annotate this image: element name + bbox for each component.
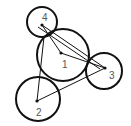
circle-graph-diagram: 1234 xyxy=(0,0,131,126)
center-point-4 xyxy=(40,23,43,26)
center-point-2 xyxy=(35,99,38,102)
labels: 1234 xyxy=(36,12,115,118)
circles xyxy=(16,7,122,121)
node-label-4: 4 xyxy=(42,12,48,23)
node-label-1: 1 xyxy=(62,59,68,70)
node-label-3: 3 xyxy=(109,70,115,81)
edge-1-3 xyxy=(61,53,105,68)
center-point-1 xyxy=(59,51,62,54)
edge-2-3 xyxy=(37,68,105,101)
circle-node-3 xyxy=(86,53,122,89)
node-label-2: 2 xyxy=(36,107,42,118)
center-point-3 xyxy=(103,66,106,69)
